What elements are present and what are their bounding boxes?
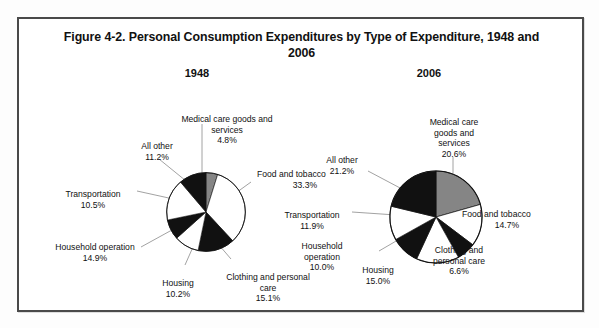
callout-value: 14.9% <box>47 253 143 263</box>
callout-1948-transportation: Transportation 10.5% <box>51 179 135 221</box>
callout-value: 21.2% <box>311 166 373 176</box>
callout-2006-medical: Medical care goods and services 20.6% <box>419 107 489 169</box>
callout-label: All other <box>326 155 358 165</box>
figure-panel: Figure 4-2. Personal Consumption Expendi… <box>17 17 584 312</box>
chart-year-label-2006: 2006 <box>389 67 469 79</box>
callout-value: 20.6% <box>419 149 489 159</box>
callout-label: Household operation <box>55 242 134 252</box>
callout-label: Clothing and personal care <box>433 245 485 265</box>
callout-value: 11.2% <box>121 152 193 162</box>
callout-label: Transportation <box>284 210 339 220</box>
callout-value: 10.5% <box>51 200 135 210</box>
callout-label: Medical care goods and services <box>430 117 479 148</box>
callout-label: All other <box>141 141 173 151</box>
callout-value: 15.1% <box>215 293 321 303</box>
callout-label: Medical care goods and services <box>181 114 272 134</box>
figure-title: Figure 4-2. Personal Consumption Expendi… <box>49 29 554 61</box>
callout-label: Household operation <box>301 241 342 261</box>
callout-value: 6.6% <box>419 266 499 276</box>
callout-value: 10.0% <box>289 262 355 272</box>
callout-value: 14.7% <box>462 220 552 230</box>
callout-2006-transportation: Transportation 11.9% <box>271 200 353 242</box>
callout-label: Housing <box>162 278 194 288</box>
callout-1948-household: Household operation 14.9% <box>47 232 143 274</box>
callout-value: 10.2% <box>143 289 213 299</box>
callout-label: Food and tobacco <box>462 209 531 219</box>
callout-2006-all-other: All other 21.2% <box>311 145 373 187</box>
chart-year-label-1948: 1948 <box>157 67 237 79</box>
callout-label: Housing <box>362 265 394 275</box>
pie-chart-1948[interactable] <box>165 171 247 253</box>
callout-label: Transportation <box>65 189 120 199</box>
callout-value: 11.9% <box>271 221 353 231</box>
callout-1948-housing: Housing 10.2% <box>143 268 213 310</box>
callout-1948-all-other: All other 11.2% <box>121 131 193 173</box>
callout-2006-clothing: Clothing and personal care 6.6% <box>419 235 499 287</box>
